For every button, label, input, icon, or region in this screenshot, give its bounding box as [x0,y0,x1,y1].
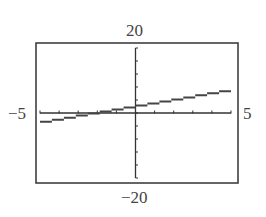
graph-window [0,0,266,217]
